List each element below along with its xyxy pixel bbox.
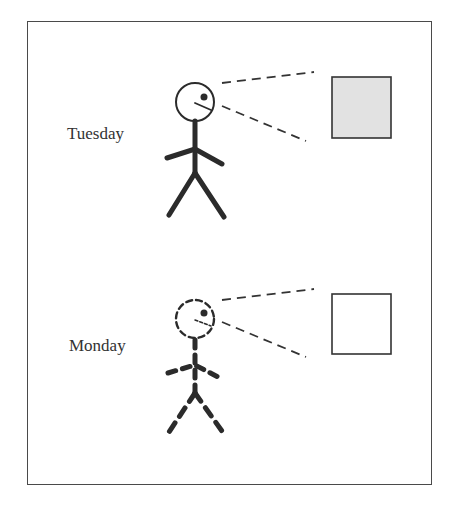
- eye-icon: [201, 94, 208, 101]
- stick-figure-monday: [168, 300, 224, 434]
- head-dashed-icon: [176, 300, 214, 338]
- head-icon: [176, 83, 214, 121]
- eye-icon: [201, 310, 208, 317]
- stick-figure-tuesday: [167, 83, 224, 217]
- diagram-canvas: [0, 0, 452, 506]
- sightlines-tuesday: [222, 72, 314, 141]
- sightlines-monday: [222, 289, 314, 357]
- object-square-gray: [332, 77, 391, 138]
- object-square-white: [332, 294, 391, 354]
